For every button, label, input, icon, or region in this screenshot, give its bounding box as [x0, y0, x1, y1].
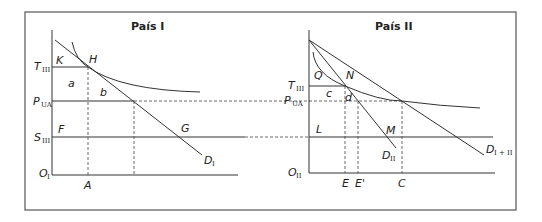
point-g: G — [181, 122, 190, 135]
label-a: A — [83, 179, 92, 192]
area-d: d — [345, 91, 353, 104]
point-q: Q — [314, 69, 323, 82]
trade-diagram: País I T III P UA S III O I — [0, 0, 542, 222]
svg-text:UA: UA — [41, 101, 53, 109]
svg-text:P: P — [284, 94, 291, 107]
svg-text:I + II: I + II — [494, 149, 513, 157]
svg-text:III: III — [296, 85, 305, 93]
svg-text:III: III — [42, 66, 51, 74]
svg-text:II: II — [390, 155, 396, 163]
label-c: C — [398, 177, 406, 190]
panel-title: País II — [375, 20, 413, 33]
label-e: E — [342, 177, 349, 190]
svg-text:III: III — [42, 137, 51, 145]
point-l: L — [316, 123, 322, 136]
label-e-prime: E' — [355, 177, 365, 190]
panel-title: País I — [131, 20, 164, 33]
point-n: N — [346, 69, 354, 82]
point-h: H — [89, 53, 97, 66]
area-a: a — [68, 77, 75, 90]
svg-text:I: I — [212, 160, 215, 168]
svg-text:UA: UA — [292, 100, 304, 108]
diagram-frame — [25, 12, 516, 210]
point-k: K — [56, 54, 64, 67]
svg-text:II: II — [296, 172, 302, 180]
area-b: b — [100, 86, 107, 99]
svg-text:S: S — [34, 131, 41, 144]
svg-text:P: P — [33, 95, 40, 108]
svg-text:I: I — [47, 173, 50, 181]
area-c: c — [326, 87, 332, 100]
point-f: F — [58, 123, 65, 136]
point-m: M — [386, 124, 396, 137]
